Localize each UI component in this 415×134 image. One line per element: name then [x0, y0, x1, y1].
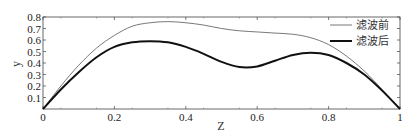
y-tick-label: 0.6 — [27, 34, 41, 46]
x-tick-label: 0.4 — [179, 111, 193, 123]
series-group — [43, 22, 400, 109]
x-tick-label: 0 — [40, 111, 46, 123]
x-tick-label: 0.8 — [322, 111, 336, 123]
y-tick-label: 0.2 — [27, 80, 41, 92]
y-tick-label: 0.5 — [27, 46, 41, 58]
y-tick-label: 0.8 — [27, 11, 41, 23]
y-tick-label: 0.3 — [27, 69, 41, 81]
x-tick-label: 1 — [397, 111, 403, 123]
y-axis-label: y — [9, 61, 23, 67]
plot-area: 00.20.40.60.81 0.10.20.30.40.50.60.70.8 — [27, 11, 403, 123]
series-after-filter — [43, 41, 400, 109]
x-axis-ticks: 00.20.40.60.81 — [40, 17, 403, 123]
x-tick-label: 0.6 — [250, 111, 264, 123]
legend: 滤波前 滤波后 — [330, 18, 389, 48]
line-chart: 00.20.40.60.81 0.10.20.30.40.50.60.70.8 … — [0, 0, 415, 134]
x-axis-label: Z — [217, 119, 224, 133]
x-tick-label: 0.2 — [108, 111, 122, 123]
legend-label-before: 滤波前 — [356, 18, 389, 32]
y-tick-label: 0.1 — [27, 92, 41, 104]
y-tick-label: 0.4 — [27, 57, 41, 69]
series-before-filter — [43, 22, 400, 109]
legend-label-after: 滤波后 — [356, 35, 389, 48]
y-tick-label: 0.7 — [27, 23, 41, 35]
